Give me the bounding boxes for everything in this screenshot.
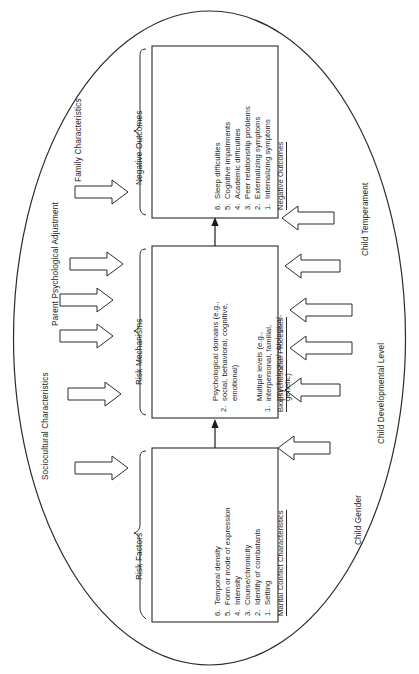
bracket-label-negative-outcomes: Negative Outcomes <box>127 111 147 185</box>
negative-outcomes-num-6: 6. <box>205 203 225 210</box>
bracket-label-risk-factors: Risk Factors <box>127 533 147 580</box>
biopsychosocial-item-2: Psychological domains (e.g.,social, beha… <box>211 302 239 401</box>
right-label-child-temperament: Child Temperament <box>353 183 373 256</box>
marital-conflict-item-6: Temporal density <box>205 546 225 605</box>
biopsychosocial-num-2: 2. <box>211 405 231 412</box>
negative-outcomes-item-6: Sleep difficulties <box>205 142 225 199</box>
bracket-label-risk-mechanisms: Risk Mechanisms <box>127 319 147 385</box>
marital-conflict-num-6: 6. <box>205 609 225 616</box>
right-label-child-gender: Child Gender <box>346 495 366 545</box>
left-label-parent-psychological-adjustment: Parent Psychological Adjustment <box>43 202 63 326</box>
biopsychosocial-item-1-text: Multiple levels (e.g.,interpersonal, fam… <box>255 315 292 401</box>
biopsychosocial-num-1: 1. <box>255 405 275 412</box>
negative-outcomes-title: Negative Outcomes <box>276 142 287 210</box>
marital-conflict-title: Marital Conflict Characteristics <box>276 510 287 616</box>
left-label-sociocultural-characteristics: Sociocultural Characteristics <box>33 372 53 480</box>
figure-canvas: Negative Outcomes 1. Internalizing sympt… <box>0 0 419 674</box>
biopsychosocial-item-2-text: Psychological domains (e.g.,social, beha… <box>211 302 239 401</box>
right-label-child-developmental-level: Child Developmental Level <box>369 343 389 444</box>
biopsychosocial-item-1: Multiple levels (e.g.,interpersonal, fam… <box>255 315 292 401</box>
left-label-family-characteristics: Family Characteristics <box>66 98 86 182</box>
